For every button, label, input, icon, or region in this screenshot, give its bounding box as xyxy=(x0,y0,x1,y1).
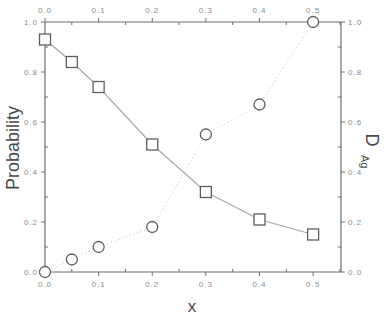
y2-tick-label: 0.0 xyxy=(348,268,362,277)
x-top-tick-label: 0.0 xyxy=(38,6,52,15)
y-tick-label: 0.2 xyxy=(24,218,38,227)
probability-markers xyxy=(40,34,319,240)
y-tick-label: 0.4 xyxy=(24,168,38,177)
y-tick-label: 1.0 xyxy=(24,18,38,27)
x-tick-label: 0.4 xyxy=(252,280,266,289)
square-marker xyxy=(40,34,51,45)
y2-axis-title: D Ag xyxy=(359,134,382,169)
x-tick-label: 0.5 xyxy=(306,280,320,289)
y-tick-label: 0.8 xyxy=(24,68,38,77)
probability-line xyxy=(45,40,313,235)
x-top-tick-label: 0.2 xyxy=(145,6,159,15)
square-marker xyxy=(200,187,211,198)
circle-marker xyxy=(93,242,104,253)
chart-canvas: 0.00.00.10.10.20.20.30.30.40.40.50.50.00… xyxy=(0,0,389,318)
square-marker xyxy=(66,57,77,68)
tick-labels: 0.00.00.10.10.20.20.30.30.40.40.50.50.00… xyxy=(24,6,362,289)
d-ag-dotted-line xyxy=(45,22,313,272)
x-tick-label: 0.0 xyxy=(38,280,52,289)
circle-marker xyxy=(40,267,51,278)
circle-marker xyxy=(308,17,319,28)
y2-tick-label: 0.8 xyxy=(348,68,362,77)
square-marker xyxy=(308,229,319,240)
x-tick-label: 0.1 xyxy=(92,280,106,289)
x-tick-label: 0.2 xyxy=(145,280,159,289)
x-top-tick-label: 0.5 xyxy=(306,6,320,15)
x-top-tick-label: 0.3 xyxy=(199,6,213,15)
y2-tick-label: 1.0 xyxy=(348,18,362,27)
y-tick-label: 0.6 xyxy=(24,118,38,127)
y2-tick-label: 0.6 xyxy=(348,118,362,127)
y-tick-label: 0.0 xyxy=(24,268,38,277)
d-ag-markers xyxy=(40,17,319,278)
plot-frame xyxy=(45,22,341,272)
d-ag-series-line xyxy=(45,22,313,272)
y2-tick-label: 0.2 xyxy=(348,218,362,227)
axis-ticks xyxy=(41,18,345,276)
y2-axis-title-subscript: Ag xyxy=(359,155,371,168)
x-tick-label: 0.3 xyxy=(199,280,213,289)
circle-marker xyxy=(147,222,158,233)
y-axis-title: Probability xyxy=(3,106,23,190)
y2-axis-title-main: D xyxy=(362,134,382,147)
square-marker xyxy=(147,139,158,150)
x-top-tick-label: 0.1 xyxy=(92,6,106,15)
probability-series-line xyxy=(45,40,313,235)
circle-marker xyxy=(66,254,77,265)
x-axis-title: x xyxy=(188,297,197,316)
square-marker xyxy=(254,214,265,225)
x-top-tick-label: 0.4 xyxy=(252,6,266,15)
circle-marker xyxy=(200,129,211,140)
circle-marker xyxy=(254,99,265,110)
square-marker xyxy=(93,82,104,93)
y2-tick-label: 0.4 xyxy=(348,168,362,177)
